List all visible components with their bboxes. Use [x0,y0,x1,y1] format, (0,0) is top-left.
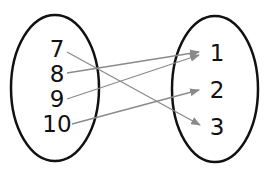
range-value: 2 [210,77,225,103]
arrow-9-to-1 [67,55,199,99]
range-value: 3 [210,114,225,140]
domain-value: 7 [50,36,65,62]
domain-value: 10 [42,111,71,137]
range-value: 1 [210,40,225,66]
arrow-10-to-2 [72,90,199,124]
domain-value: 8 [50,61,65,87]
domain-value: 9 [50,86,65,112]
mapping-diagram: 7 8 9 10 1 2 3 [0,0,274,172]
